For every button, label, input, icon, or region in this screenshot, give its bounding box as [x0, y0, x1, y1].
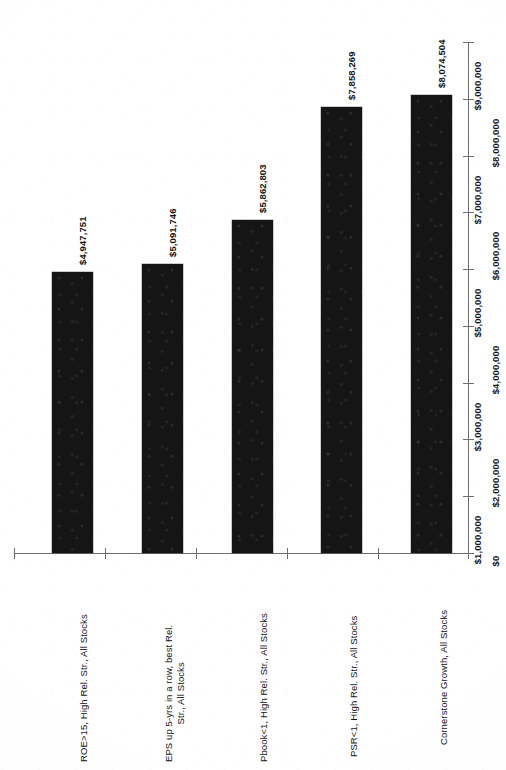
bar: [321, 107, 362, 553]
category-label-line: PSR<1, High Rel. Str., All Stocks: [348, 616, 359, 757]
category-label: Cornerstone Growth, All Stocks: [438, 610, 449, 745]
category-label-line: Str., All Stocks: [175, 625, 186, 762]
bar: [142, 264, 183, 553]
bar-value-label: $5,862,803: [257, 164, 268, 213]
value-axis-tick-label: $5,000,000: [472, 289, 483, 338]
bar: [411, 95, 452, 553]
category-axis-tick: [468, 548, 469, 559]
category-label: EPS up 5-yrs in a row, best Rel. Str., A…: [163, 625, 186, 762]
bar: [52, 272, 93, 553]
value-axis-tick-label: $0: [490, 556, 501, 567]
category-axis-tick: [14, 548, 15, 559]
value-axis-tick-label: $8,000,000: [490, 119, 501, 168]
value-axis-tick-label: $2,000,000: [490, 459, 501, 508]
bar: [232, 220, 273, 553]
value-axis-tick-label: $4,000,000: [490, 346, 501, 395]
value-axis-tick: [463, 42, 474, 43]
value-axis-tick: [463, 496, 474, 497]
category-label-line: Pbook<1, High Rel. Str., All Stocks: [258, 613, 269, 762]
bar-value-label: $5,091,746: [167, 208, 178, 257]
bar-chart: $0 $1,000,000 $2,000,000 $3,000,000 $4,0…: [0, 0, 506, 770]
bar-value-label: $4,947,751: [77, 216, 88, 265]
value-axis-tick-label: $7,000,000: [472, 176, 483, 225]
category-axis-line: [14, 553, 469, 554]
category-axis-tick: [105, 548, 106, 559]
category-axis-tick: [287, 548, 288, 559]
value-axis-tick-label: $3,000,000: [472, 403, 483, 452]
value-axis-tick-label: $9,000,000: [472, 62, 483, 111]
value-axis-tick-label: $1,000,000: [472, 516, 483, 565]
category-label-line: EPS up 5-yrs in a row, best Rel.: [163, 625, 174, 762]
value-axis-tick: [463, 156, 474, 157]
bar-value-label: $7,858,269: [346, 51, 357, 100]
value-axis-tick: [463, 269, 474, 270]
bar-value-label: $8,074,504: [436, 39, 447, 88]
value-axis-line: [468, 42, 469, 554]
value-axis-tick: [463, 383, 474, 384]
category-label-line: ROE>15, High Rel. Str., All Stocks: [78, 614, 89, 762]
value-axis-tick-label: $6,000,000: [490, 232, 501, 281]
category-axis-tick: [196, 548, 197, 559]
category-label: ROE>15, High Rel. Str., All Stocks: [78, 614, 89, 762]
category-label: PSR<1, High Rel. Str., All Stocks: [348, 616, 359, 757]
category-label: Pbook<1, High Rel. Str., All Stocks: [258, 613, 269, 762]
category-axis-tick: [378, 548, 379, 559]
category-label-line: Cornerstone Growth, All Stocks: [438, 610, 449, 745]
